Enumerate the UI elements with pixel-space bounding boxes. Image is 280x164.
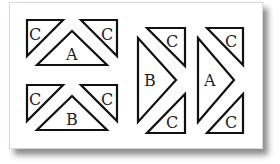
center-label: A	[65, 45, 78, 64]
group-horizontal-b: C C B	[27, 85, 117, 130]
group-horizontal-a: C C A	[27, 20, 117, 65]
triangle-diagram: C C A C C B C B C C A C	[0, 0, 280, 164]
corner-label-left: C	[29, 90, 41, 109]
center-label: B	[144, 71, 156, 90]
corner-label-right: C	[101, 90, 113, 109]
center-label: B	[66, 110, 78, 129]
center-label: A	[203, 71, 216, 90]
corner-label-bottom: C	[166, 113, 178, 132]
corner-label-bottom: C	[225, 113, 237, 132]
corner-label-right: C	[101, 25, 113, 44]
group-vertical-a: C A C	[198, 28, 243, 133]
corner-label-top: C	[225, 32, 237, 51]
corner-label-top: C	[166, 32, 178, 51]
group-vertical-b: C B C	[138, 28, 185, 133]
corner-label-left: C	[29, 25, 41, 44]
